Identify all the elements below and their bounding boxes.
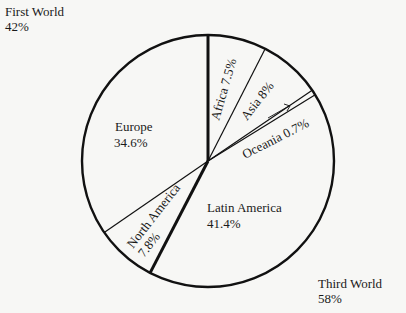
- africa-label: Africa 7.5%: [207, 56, 239, 121]
- pie-chart: Europe 34.6% Latin America 41.4% North A…: [0, 0, 406, 313]
- oceania-pointer-arrow-icon: [268, 106, 289, 118]
- oceania-label: Oceania 0.7%: [240, 115, 312, 162]
- latin-america-name: Latin America: [207, 200, 282, 215]
- europe-pct: 34.6%: [114, 135, 148, 150]
- europe-name: Europe: [115, 119, 153, 134]
- latin-america-pct: 41.4%: [207, 216, 241, 231]
